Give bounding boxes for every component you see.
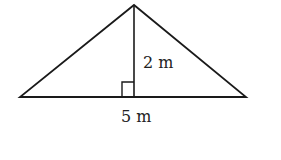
triangle-outline xyxy=(20,5,246,97)
right-angle-marker xyxy=(122,82,134,97)
height-label: 2 m xyxy=(143,53,173,72)
base-label: 5 m xyxy=(121,107,151,126)
triangle-diagram: 2 m 5 m xyxy=(0,0,281,160)
